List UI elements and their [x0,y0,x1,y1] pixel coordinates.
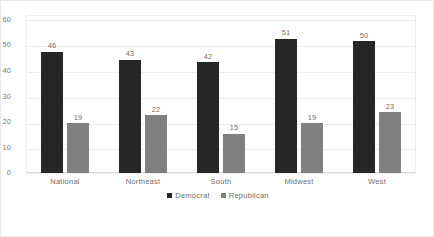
x-category-label: National [20,177,110,186]
bar-republican-national[interactable] [67,123,89,173]
bar-group: 4215 [182,15,260,173]
legend-swatch-icon [167,193,172,198]
bar-value-label: 22 [136,106,176,113]
bar-republican-midwest[interactable] [301,123,323,173]
bar-group: 4619 [26,15,104,173]
bar-value-label: 43 [110,50,150,57]
bar-value-label: 19 [58,114,98,121]
bar-value-label: 51 [266,29,306,36]
x-category-label: Midwest [254,177,344,186]
bars-layer: 46194322421551195023 [26,15,416,173]
bar-democrat-northeast[interactable] [119,60,141,173]
x-category-label: West [332,177,422,186]
y-tick-label: 50 [0,41,11,48]
bar-democrat-national[interactable] [41,52,63,173]
chart-legend: Democrat Republican [1,191,434,200]
bar-republican-south[interactable] [223,134,245,174]
legend-item-republican[interactable]: Republican [221,191,269,200]
bar-democrat-south[interactable] [197,62,219,173]
legend-label: Democrat [175,191,210,200]
y-tick-label: 10 [0,144,11,151]
legend-label: Republican [229,191,269,200]
bar-group: 4322 [104,15,182,173]
bar-value-label: 15 [214,124,254,131]
bar-value-label: 46 [32,42,72,49]
y-tick-label: 60 [0,16,11,23]
legend-swatch-icon [221,193,226,198]
bar-value-label: 19 [292,114,332,121]
x-category-label: South [176,177,266,186]
bar-value-label: 23 [370,103,410,110]
x-category-label: Northeast [98,177,188,186]
chart-container: 60 50 40 30 20 10 0 46194322421551195023… [0,0,434,237]
y-tick-label: 40 [0,67,11,74]
y-tick-label: 30 [0,93,11,100]
bar-democrat-midwest[interactable] [275,39,297,173]
bar-republican-northeast[interactable] [145,115,167,173]
bar-value-label: 42 [188,53,228,60]
y-tick-label: 0 [0,169,11,176]
bar-republican-west[interactable] [379,112,401,173]
legend-item-democrat[interactable]: Democrat [167,191,210,200]
y-tick-label: 20 [0,118,11,125]
bar-value-label: 50 [344,32,384,39]
bar-group: 5023 [338,15,416,173]
bar-group: 5119 [260,15,338,173]
